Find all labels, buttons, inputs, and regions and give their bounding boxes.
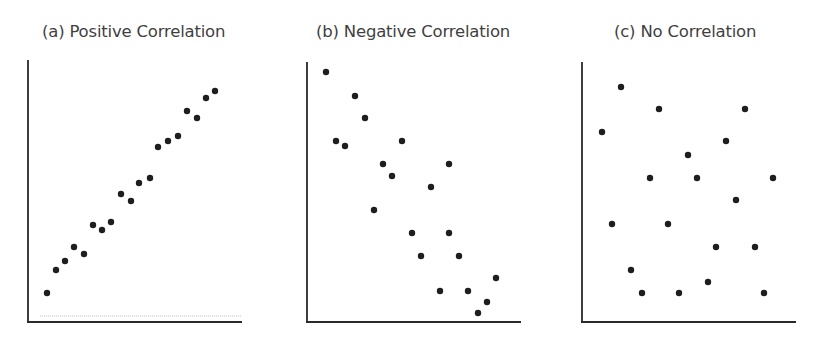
data-point	[752, 244, 758, 250]
data-point	[618, 84, 624, 90]
data-point	[418, 253, 424, 259]
data-point	[437, 288, 443, 294]
data-point	[694, 175, 700, 181]
data-point	[203, 95, 209, 101]
data-point	[713, 244, 719, 250]
data-point	[446, 230, 452, 236]
data-point	[333, 138, 339, 144]
data-point	[465, 288, 471, 294]
data-point	[409, 230, 415, 236]
data-point	[399, 138, 405, 144]
data-point	[118, 191, 124, 197]
data-point	[609, 221, 615, 227]
panel-b-negative-correlation	[306, 62, 521, 323]
data-point	[599, 129, 605, 135]
data-point	[323, 69, 329, 75]
data-point	[723, 138, 729, 144]
data-point	[475, 310, 481, 316]
data-point	[194, 115, 200, 121]
data-point	[761, 290, 767, 296]
data-point	[685, 152, 691, 158]
data-point	[212, 88, 218, 94]
data-point	[676, 290, 682, 296]
data-point	[742, 106, 748, 112]
data-point	[184, 108, 190, 114]
data-point	[446, 161, 452, 167]
correlation-figure: (a) Positive Correlation (b) Negative Co…	[0, 0, 815, 337]
data-point	[770, 175, 776, 181]
data-point	[136, 180, 142, 186]
data-point	[380, 161, 386, 167]
data-point	[371, 207, 377, 213]
data-point	[705, 279, 711, 285]
data-point	[165, 138, 171, 144]
data-point	[128, 198, 134, 204]
data-point	[108, 219, 114, 225]
data-point	[53, 267, 59, 273]
data-point	[389, 173, 395, 179]
data-point	[175, 133, 181, 139]
data-point	[62, 258, 68, 264]
data-point	[656, 106, 662, 112]
data-point	[493, 275, 499, 281]
data-point	[99, 227, 105, 233]
data-point	[733, 197, 739, 203]
data-point	[639, 290, 645, 296]
data-point	[155, 144, 161, 150]
panel-a-positive-correlation	[27, 60, 242, 323]
data-point	[71, 244, 77, 250]
data-point	[44, 290, 50, 296]
data-point	[628, 267, 634, 273]
data-point	[647, 175, 653, 181]
data-point	[665, 221, 671, 227]
data-point	[484, 299, 490, 305]
data-point	[352, 93, 358, 99]
data-point	[342, 143, 348, 149]
data-point	[90, 222, 96, 228]
data-point	[428, 184, 434, 190]
data-point	[147, 175, 153, 181]
scatter-plots	[0, 0, 815, 337]
panel-c-no-correlation	[581, 62, 796, 323]
data-point	[81, 251, 87, 257]
data-point	[362, 115, 368, 121]
data-point	[456, 253, 462, 259]
